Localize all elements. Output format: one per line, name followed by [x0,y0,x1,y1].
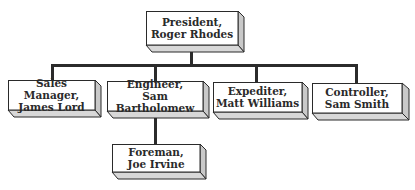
connector-horizontal-bar [51,64,358,67]
connector-expediter [255,64,258,83]
node-controller: Controller, Sam Smith [312,83,410,120]
node-president: President, Roger Rhodes [146,11,245,52]
node-title: Engineer, [127,78,183,90]
node-person: Sam Smith [325,98,389,110]
org-chart: President, Roger Rhodes Sales Manager, J… [0,0,415,190]
connector-controller [355,64,358,84]
node-foreman: Foreman, Joe Irvine [112,144,207,179]
node-title: Expediter, [228,85,288,97]
node-person: Joe Irvine [127,158,184,170]
node-person: Sam Bartholomew [107,90,203,114]
node-expediter: Expediter, Matt Williams [213,82,309,119]
node-title: President, [162,16,222,28]
node-person: Roger Rhodes [151,28,233,40]
connector-foreman [154,117,157,145]
node-person: James Lord [18,101,84,113]
node-engineer: Engineer, Sam Bartholomew [107,81,210,118]
node-sales-manager: Sales Manager, James Lord [8,80,102,117]
node-title: Foreman, [128,146,183,158]
node-title: Sales Manager, [8,77,95,101]
node-title: Controller, [325,86,388,98]
node-person: Matt Williams [216,97,299,109]
